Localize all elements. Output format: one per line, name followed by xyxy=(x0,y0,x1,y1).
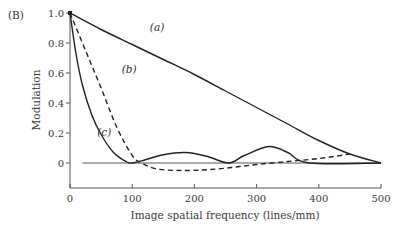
x-tick-label: 400 xyxy=(309,193,328,204)
y-tick-label: 0.6 xyxy=(48,68,64,79)
panel-label: (B) xyxy=(8,9,24,21)
x-tick-label: 200 xyxy=(185,193,204,204)
y-tick-label: 0.4 xyxy=(48,98,64,109)
y-tick-label: 0 xyxy=(58,158,64,169)
curve-label-b: (b) xyxy=(122,63,137,75)
curve-b xyxy=(70,13,350,171)
y-axis-label: Modulation xyxy=(30,69,42,130)
x-tick-label: 300 xyxy=(247,193,266,204)
y-tick-label: 0.2 xyxy=(48,128,64,139)
x-tick-label: 0 xyxy=(67,193,73,204)
x-axis-label: Image spatial frequency (lines/mm) xyxy=(131,209,320,221)
curve-c xyxy=(70,13,381,164)
x-tick-label: 500 xyxy=(371,193,390,204)
origin-marker xyxy=(68,11,72,15)
modulation-transfer-chart: (B)00.20.40.60.81.00100200300400500Image… xyxy=(0,0,399,227)
curve-label-a: (a) xyxy=(150,21,164,33)
curve-a xyxy=(70,13,381,163)
curve-label-c: (c) xyxy=(97,126,111,138)
y-tick-label: 0.8 xyxy=(48,38,64,49)
y-tick-label: 1.0 xyxy=(48,8,64,19)
x-tick-label: 100 xyxy=(123,193,142,204)
